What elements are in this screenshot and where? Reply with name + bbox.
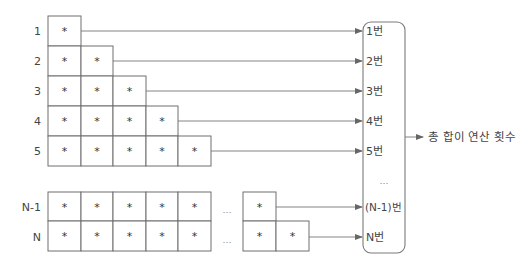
output-5: 5번: [366, 145, 383, 158]
svg-text:*: *: [94, 55, 100, 68]
row-1: *: [48, 16, 81, 46]
svg-text:*: *: [62, 145, 68, 158]
svg-text:*: *: [257, 201, 263, 214]
output-3: 3번: [366, 85, 383, 98]
svg-text:*: *: [192, 201, 198, 214]
svg-text:*: *: [192, 230, 198, 243]
svg-text:*: *: [94, 201, 100, 214]
diagram-canvas: 1 2 3 4 5 N-1 N * * * * * * * * * *: [0, 0, 526, 267]
row-label-n: N: [33, 231, 41, 244]
result-label: 총 합이 연산 횟수: [428, 130, 516, 144]
row-gap-ellipsis: …: [223, 205, 232, 215]
svg-text:*: *: [159, 230, 165, 243]
output-1: 1번: [366, 25, 383, 38]
svg-text:*: *: [290, 230, 296, 243]
output-n: N번: [366, 231, 384, 244]
svg-text:*: *: [62, 85, 68, 98]
row-label-1: 1: [34, 25, 41, 38]
svg-text:*: *: [62, 55, 68, 68]
svg-text:*: *: [127, 115, 133, 128]
svg-text:*: *: [127, 230, 133, 243]
row-n-minus-1: * * * * * … *: [48, 192, 276, 221]
row-gap-ellipsis: …: [223, 235, 232, 245]
svg-text:*: *: [127, 85, 133, 98]
output-4: 4번: [366, 115, 383, 128]
output-n-minus-1: (N-1)번: [365, 201, 402, 213]
svg-text:*: *: [62, 25, 68, 38]
svg-text:*: *: [257, 230, 263, 243]
row-label-n-minus-1: N-1: [22, 201, 41, 214]
svg-text:*: *: [94, 115, 100, 128]
row-4: * * * *: [48, 106, 178, 136]
svg-text:*: *: [62, 230, 68, 243]
svg-text:*: *: [159, 201, 165, 214]
row-3: * * *: [48, 76, 146, 106]
svg-text:*: *: [94, 85, 100, 98]
row-label-4: 4: [34, 115, 41, 128]
svg-text:*: *: [159, 115, 165, 128]
output-ellipsis: …: [380, 176, 389, 186]
output-2: 2번: [366, 55, 383, 68]
svg-text:*: *: [127, 145, 133, 158]
row-2: * *: [48, 46, 113, 76]
row-label-3: 3: [34, 85, 41, 98]
svg-text:*: *: [127, 201, 133, 214]
row-label-2: 2: [34, 55, 41, 68]
svg-text:*: *: [159, 145, 165, 158]
row-label-5: 5: [34, 145, 41, 158]
svg-text:*: *: [192, 145, 198, 158]
svg-text:*: *: [94, 145, 100, 158]
svg-text:*: *: [62, 115, 68, 128]
row-n: * * * * * … * *: [48, 221, 309, 251]
row-5: * * * * *: [48, 136, 211, 166]
svg-text:*: *: [94, 230, 100, 243]
svg-text:*: *: [62, 201, 68, 214]
